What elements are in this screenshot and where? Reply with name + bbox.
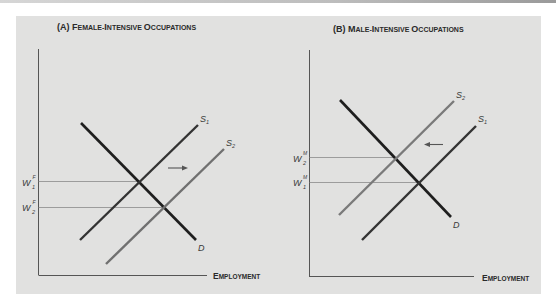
svg-text:2: 2 [302,160,306,166]
svg-text:W: W [293,154,303,164]
panel-b-supply-1-label: S 1 [478,114,487,125]
svg-text:1: 1 [206,119,209,125]
svg-text:W: W [293,178,303,188]
panel-a-title: (A) FEMALE-INTENSIVE OCCUPATIONS [57,22,196,32]
panel-a-supply-1-label: S 1 [200,114,209,125]
panel-b: (B) MALE-INTENSIVE OCCUPATIONS EMPLOYMEN… [293,24,529,283]
panel-a-demand-label: D [198,243,205,253]
svg-text:M: M [303,174,308,180]
svg-text:2: 2 [31,209,35,215]
svg-text:2: 2 [461,95,465,101]
svg-text:2: 2 [231,143,235,149]
panel-b-demand-label: D [453,220,460,230]
panel-a-wage-2-label: W F 2 [22,199,37,215]
svg-text:F: F [33,199,37,205]
panel-a: (A) FEMALE-INTENSIVE OCCUPATIONS EMPLOYM… [22,22,260,281]
svg-text:M: M [303,150,308,156]
svg-text:1: 1 [32,184,35,190]
svg-text:W: W [22,203,32,213]
svg-text:W: W [22,178,32,188]
panel-b-title: (B) MALE-INTENSIVE OCCUPATIONS [333,24,464,34]
svg-text:F: F [33,174,37,180]
svg-text:1: 1 [303,184,306,190]
panel-b-shift-left-arrow-icon [424,142,443,147]
panel-b-x-axis-label: EMPLOYMENT [482,273,529,283]
svg-text:1: 1 [484,119,487,125]
panel-a-supply-2-label: S 2 [226,138,235,149]
panel-b-wage-2-label: W M 2 [293,150,308,166]
panel-a-wage-1-label: W F 1 [22,174,37,190]
panel-b-supply-2-label: S 2 [456,90,465,101]
panel-b-wage-1-label: W M 1 [293,174,308,190]
supply-demand-figure: (A) FEMALE-INTENSIVE OCCUPATIONS EMPLOYM… [0,0,556,303]
panel-a-shift-right-arrow-icon [168,166,188,171]
panel-a-x-axis-label: EMPLOYMENT [213,271,260,281]
